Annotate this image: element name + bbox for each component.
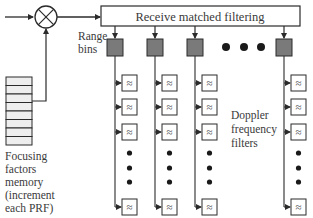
bandpass-icon: ≈ <box>126 126 132 138</box>
range-bins-label-line2: bins <box>78 43 98 55</box>
focusing-memory-stack <box>6 77 32 145</box>
doppler-label-line1: Doppler <box>231 109 269 122</box>
range-bin <box>107 39 123 56</box>
doppler-filters-ellipsis <box>127 150 301 184</box>
bandpass-icon: ≈ <box>295 201 301 213</box>
range-bin <box>187 39 203 56</box>
memory-label-line2: factors <box>5 163 37 175</box>
filter-glyphs: ≈ ≈ ≈ ≈ ≈ ≈ ≈ ≈ ≈ ≈ ≈ ≈ ≈ ≈ ≈ ≈ <box>126 77 301 213</box>
bandpass-icon: ≈ <box>295 101 301 113</box>
range-bin-column-3 <box>187 26 203 207</box>
bandpass-icon: ≈ <box>126 101 132 113</box>
doppler-filter-column-1 <box>115 75 137 215</box>
bandpass-icon: ≈ <box>126 77 132 89</box>
radar-processing-diagram: Receive matched filtering Range bins <box>0 0 313 218</box>
doppler-filter-column-3 <box>195 75 217 215</box>
bandpass-icon: ≈ <box>206 201 212 213</box>
doppler-filter-column-2 <box>155 75 177 215</box>
range-bins-label-line1: Range <box>78 30 107 43</box>
bandpass-icon: ≈ <box>295 77 301 89</box>
doppler-filters <box>115 75 306 215</box>
memory-label-line3: memory <box>5 176 44 189</box>
memory-label-line4: (increment <box>5 189 56 202</box>
doppler-filter-column-n <box>284 75 306 215</box>
doppler-label-line2: frequency <box>231 123 277 136</box>
memory-label-line5: each PRF) <box>5 202 53 215</box>
bandpass-icon: ≈ <box>206 77 212 89</box>
range-bin-column-2 <box>147 26 163 207</box>
memory-label-line1: Focusing <box>5 150 47 163</box>
matched-filter-label: Receive matched filtering <box>135 10 265 24</box>
multiplier-icon <box>35 6 57 28</box>
bandpass-icon: ≈ <box>126 201 132 213</box>
bandpass-icon: ≈ <box>206 126 212 138</box>
doppler-label-line3: filters <box>231 137 258 149</box>
range-bin <box>147 39 163 56</box>
bandpass-icon: ≈ <box>295 126 301 138</box>
range-bin <box>276 39 292 56</box>
bandpass-icon: ≈ <box>166 77 172 89</box>
bandpass-icon: ≈ <box>166 126 172 138</box>
range-bin-column-n <box>276 26 292 207</box>
bandpass-icon: ≈ <box>206 101 212 113</box>
matched-filter-block: Receive matched filtering <box>101 6 300 26</box>
bandpass-icon: ≈ <box>166 101 172 113</box>
bandpass-icon: ≈ <box>166 201 172 213</box>
range-bin-column-1 <box>107 26 123 207</box>
memory-to-multiplier-line <box>32 29 46 101</box>
range-bins-ellipsis <box>222 43 265 51</box>
